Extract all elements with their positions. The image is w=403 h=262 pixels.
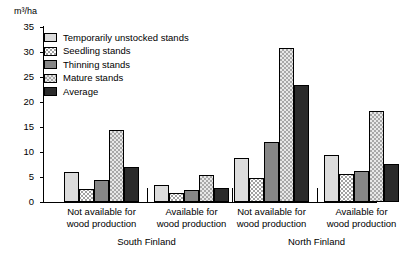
bar-temp — [154, 185, 169, 203]
legend-swatch-temp — [44, 33, 57, 42]
y-axis-tick-label: 5 — [29, 171, 34, 182]
legend-swatch-avg — [44, 87, 57, 96]
bar-avg — [124, 167, 139, 202]
legend-item: Thinning stands — [44, 58, 189, 72]
bar-avg — [384, 164, 399, 203]
bar-seed — [79, 189, 94, 203]
y-axis-tick: 15 — [40, 127, 44, 128]
bar-seed — [339, 174, 354, 202]
legend-item: Temporarily unstocked stands — [44, 31, 189, 45]
legend-label: Thinning stands — [63, 60, 130, 70]
x-axis-category-label-line: wood production — [224, 218, 320, 230]
x-axis-line — [43, 202, 377, 203]
legend-swatch-seed — [44, 47, 57, 56]
x-axis-group-label: North Finland — [257, 236, 377, 247]
legend-item: Average — [44, 85, 189, 99]
bar-avg — [214, 188, 229, 202]
x-axis-group-label: South Finland — [87, 236, 207, 247]
legend-label: Average — [63, 87, 98, 97]
x-axis-category-label: Available forwood production — [314, 206, 403, 229]
bar-temp — [324, 155, 339, 202]
y-axis-tick: 10 — [40, 152, 44, 153]
bar-seed — [249, 178, 264, 203]
y-axis-tick-label: 30 — [23, 46, 34, 57]
legend-label: Mature stands — [63, 73, 123, 83]
legend-label: Seedling stands — [63, 46, 131, 56]
category-separator — [232, 188, 233, 203]
legend-swatch-thin — [44, 60, 57, 69]
y-axis-tick-label: 15 — [23, 121, 34, 132]
bar-thin — [94, 180, 109, 203]
y-axis-tick: 0 — [40, 202, 44, 203]
legend-swatch-mature — [44, 74, 57, 83]
legend-label: Temporarily unstocked stands — [63, 33, 189, 43]
y-axis-tick-label: 35 — [23, 21, 34, 32]
y-axis-tick-label: 10 — [23, 146, 34, 157]
bar-thin — [184, 190, 199, 202]
legend-item: Mature stands — [44, 72, 189, 86]
x-axis-category-label: Not available forwood production — [54, 206, 150, 229]
y-axis-tick: 35 — [40, 27, 44, 28]
legend-item: Seedling stands — [44, 45, 189, 59]
y-axis-tick: 5 — [40, 177, 44, 178]
bar-thin — [264, 142, 279, 202]
x-axis-category-label-line: wood production — [314, 218, 403, 230]
y-axis-unit-label: m³/ha — [14, 6, 37, 16]
y-axis-tick-label: 0 — [29, 196, 34, 207]
x-axis-category-label-line: Not available for — [224, 206, 320, 218]
x-axis-category-label-line: wood production — [54, 218, 150, 230]
x-axis-category-label-line: Available for — [314, 206, 403, 218]
y-axis-tick: 20 — [40, 102, 44, 103]
legend: Temporarily unstocked standsSeedling sta… — [44, 31, 189, 99]
bar-mature — [109, 130, 124, 203]
y-axis-tick-label: 20 — [23, 96, 34, 107]
bar-avg — [294, 85, 309, 202]
x-axis-category-label-line: Not available for — [54, 206, 150, 218]
bar-temp — [234, 158, 249, 203]
bar-seed — [169, 193, 184, 202]
x-axis-category-label: Not available forwood production — [224, 206, 320, 229]
bar-thin — [354, 171, 369, 202]
bar-mature — [369, 111, 384, 203]
category-separator — [147, 188, 148, 203]
y-axis-tick-label: 25 — [23, 71, 34, 82]
bar-mature — [199, 175, 214, 203]
category-separator — [317, 188, 318, 203]
bar-mature — [279, 48, 294, 202]
bar-temp — [64, 172, 79, 202]
